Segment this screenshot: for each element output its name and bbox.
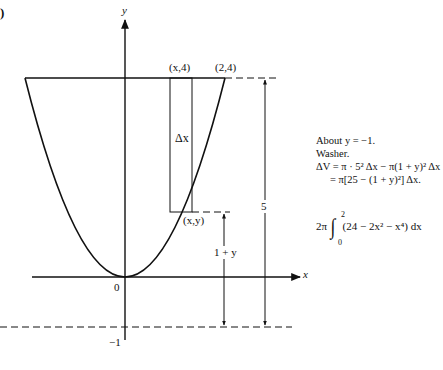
solution-notes: About y = −1. Washer. ΔV = π · 5² Δx − π…	[316, 134, 440, 186]
strip-rectangle	[170, 78, 192, 212]
volume-element-simplified: = π[25 − (1 + y)²] Δx.	[316, 173, 440, 186]
volume-integral: 2π ∫ 2 0 (24 − 2x² − x⁴) dx	[316, 214, 422, 240]
integral-upper-limit: 2	[341, 210, 345, 219]
method-note: Washer.	[316, 147, 440, 160]
rotation-axis-note: About y = −1.	[316, 134, 440, 147]
point-label-xy: (x,y)	[183, 215, 204, 226]
strip-delta-x-label: Δx	[175, 132, 189, 144]
volume-element-equation: ΔV = π · 5² Δx − π(1 + y)² Δx	[316, 160, 440, 173]
point-label-24: (2,4)	[215, 62, 236, 73]
panel-marker: )	[0, 6, 4, 19]
integral-coefficient: 2π	[316, 220, 327, 232]
integral-sign: ∫	[330, 214, 335, 240]
dimension-label-5: 5	[261, 200, 267, 213]
x-axis-label: x	[303, 269, 308, 280]
neg-one-label: −1	[109, 337, 121, 348]
origin-label: 0	[114, 282, 120, 293]
y-axis-label: y	[122, 5, 127, 16]
integrand: (24 − 2x² − x⁴) dx	[343, 220, 422, 232]
integral-lower-limit: 0	[338, 238, 342, 247]
dimension-label-1-plus-y: 1 + y	[214, 246, 237, 259]
point-label-x4: (x,4)	[169, 62, 190, 73]
